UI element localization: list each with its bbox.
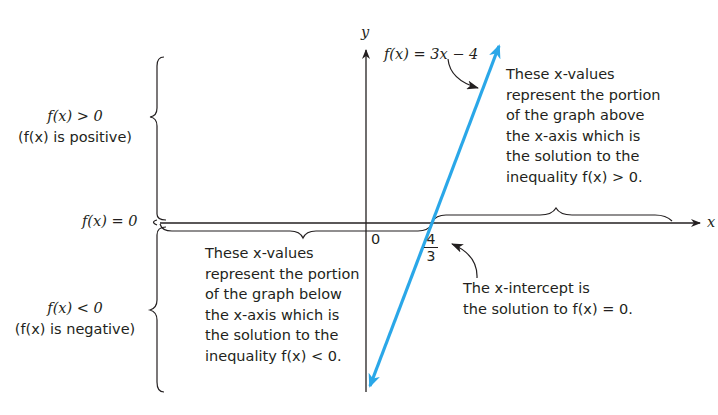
annotation-above-line: These x-values [506, 64, 661, 85]
annotation-below-line: These x-values [205, 243, 360, 264]
annotation-intercept-line: the solution to f(x) = 0. [463, 299, 633, 320]
function-line [370, 46, 499, 386]
intercept-denominator: 3 [424, 249, 438, 263]
brace-negative [150, 227, 166, 392]
annotation-below-line: of the graph below [205, 284, 360, 305]
positive-condition: f(x) > 0 [0, 106, 150, 127]
x-axis-label: x [707, 212, 715, 233]
annotation-above: These x-values represent the portion of … [506, 64, 661, 188]
annotation-below-line: inequality f(x) < 0. [205, 346, 360, 367]
pointer-arrow-intercept [452, 244, 477, 278]
brace-negative-x [160, 224, 432, 238]
annotation-above-line: inequality f(x) > 0. [506, 167, 661, 188]
negative-label: f(x) < 0 (f(x) is negative) [0, 298, 150, 340]
zero-label: f(x) = 0 [82, 211, 137, 232]
annotation-intercept: The x-intercept is the solution to f(x) … [463, 278, 633, 319]
annotation-above-line: the solution to the [506, 146, 661, 167]
negative-description: (f(x) is negative) [0, 319, 150, 340]
brace-positive [150, 57, 166, 220]
intercept-fraction: 4 3 [424, 232, 438, 263]
annotation-above-line: of the graph above [506, 105, 661, 126]
inequality-diagram: y x 0 4 3 f(x) = 3x − 4 f(x) > 0 (f(x) i… [0, 0, 718, 415]
positive-description: (f(x) is positive) [0, 127, 150, 148]
function-label: f(x) = 3x − 4 [384, 44, 478, 65]
annotation-below-line: represent the portion [205, 264, 360, 285]
annotation-above-line: represent the portion [506, 85, 661, 106]
brace-positive-x [432, 208, 672, 222]
y-axis-label: y [361, 22, 369, 43]
annotation-below: These x-values represent the portion of … [205, 243, 360, 367]
positive-label: f(x) > 0 (f(x) is positive) [0, 106, 150, 148]
annotation-below-line: the solution to the [205, 325, 360, 346]
annotation-below-line: the x-axis which is [205, 305, 360, 326]
origin-label: 0 [371, 229, 380, 250]
intercept-numerator: 4 [424, 232, 438, 246]
annotation-above-line: the x-axis which is [506, 126, 661, 147]
brace-zero [154, 220, 158, 225]
negative-condition: f(x) < 0 [0, 298, 150, 319]
annotation-intercept-line: The x-intercept is [463, 278, 633, 299]
